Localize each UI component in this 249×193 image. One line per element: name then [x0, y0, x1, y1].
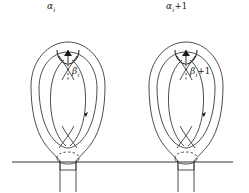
beta-i-subscript: i	[77, 71, 79, 78]
alpha-i-subscript: i	[53, 6, 55, 13]
label-alpha-i: αi	[47, 2, 55, 13]
alpha-i1-suffix: +1	[174, 1, 187, 11]
figure-canvas: αi αi+1 βi βi+1	[0, 0, 249, 193]
topology-diagram-svg	[0, 0, 249, 193]
beta-i1-suffix: +1	[198, 66, 211, 76]
label-alpha-i-plus-1: αi+1	[166, 2, 187, 13]
label-beta-i-plus-1: βi+1	[190, 67, 210, 78]
label-beta-i: βi	[72, 67, 80, 78]
handle-left	[31, 42, 105, 192]
handle-right	[149, 42, 223, 192]
